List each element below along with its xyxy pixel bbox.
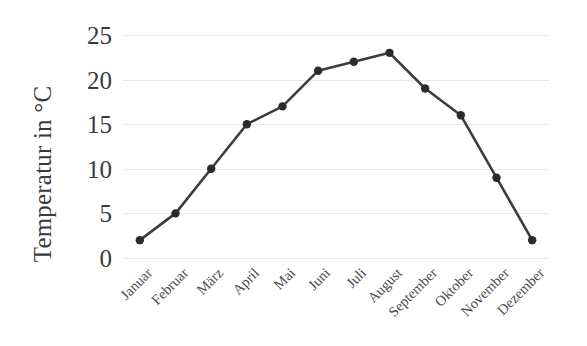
- data-point-April: April: 15: [243, 120, 251, 128]
- data-point-November: November: 9: [492, 174, 500, 182]
- temperature-line-chart: Temperatur in °C 0510152025 Januar: 2Feb…: [0, 0, 587, 346]
- data-point-Januar: Januar: 2: [136, 236, 144, 244]
- data-point-Dezember: Dezember: 2: [528, 236, 536, 244]
- y-tick-label-5: 5: [66, 201, 112, 226]
- plot-area: Januar: 2Februar: 5März: 10April: 15Mai:…: [122, 35, 550, 258]
- x-tick-label-Juni: Juni: [306, 264, 335, 293]
- data-point-Oktober: Oktober: 16: [457, 111, 465, 119]
- data-point-September: September: 19: [421, 84, 429, 92]
- x-axis-tick-labels: JanuarFebruarMärzAprilMaiJuniJuliAugustS…: [122, 258, 550, 346]
- y-tick-label-20: 20: [66, 67, 112, 92]
- data-point-Juli: Juli: 22: [350, 58, 358, 66]
- x-tick-label-April: April: [230, 264, 263, 297]
- y-tick-label-25: 25: [66, 23, 112, 48]
- y-tick-label-0: 0: [66, 246, 112, 271]
- y-tick-label-15: 15: [66, 112, 112, 137]
- data-point-Juni: Juni: 21: [314, 66, 322, 74]
- x-tick-label-März: März: [194, 264, 227, 297]
- data-series-svg: Januar: 2Februar: 5März: 10April: 15Mai:…: [122, 35, 550, 258]
- data-point-Mai: Mai: 17: [278, 102, 286, 110]
- data-point-August: August: 23: [385, 49, 393, 57]
- y-tick-label-10: 10: [66, 156, 112, 181]
- series-line-Temperatur: [140, 53, 532, 240]
- x-tick-label-Mai: Mai: [271, 264, 299, 292]
- x-tick-label-Juli: Juli: [344, 264, 370, 290]
- data-point-Februar: Februar: 5: [171, 209, 179, 217]
- data-point-März: März: 10: [207, 165, 215, 173]
- y-axis-tick-labels: 0510152025: [54, 35, 112, 258]
- x-tick-label-Februar: Februar: [148, 264, 192, 308]
